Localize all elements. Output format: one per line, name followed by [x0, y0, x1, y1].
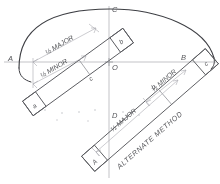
strip-lower-end-near-box: [82, 145, 108, 171]
strip-lower-end-far-label: c: [202, 59, 210, 67]
strip-lower-body[interactable]: [82, 49, 219, 172]
strip-upper-end-far-label: b: [117, 37, 124, 45]
ellipse-trammel-figure: a b c ½ MAJOR ½ MINOR: [0, 0, 220, 184]
strip-upper-minor-label: ½ MINOR: [39, 57, 69, 79]
point-label-a: A: [7, 54, 13, 63]
strip-upper-mid-label: c: [87, 74, 94, 82]
point-label-o: O: [112, 63, 118, 72]
strip-upper-end-near-label: a: [31, 102, 38, 110]
point-label-d: D: [112, 111, 118, 120]
strip-lower-end-near-label: A: [90, 158, 99, 167]
point-label-c: C: [112, 5, 118, 14]
drawing-canvas: a b c ½ MAJOR ½ MINOR: [0, 0, 220, 184]
point-label-b: B: [181, 53, 186, 62]
strip-upper-major-label: ½ MAJOR: [44, 34, 75, 56]
trammel-strip-lower[interactable]: A c b ALTERNATE METHOD: [76, 42, 220, 184]
